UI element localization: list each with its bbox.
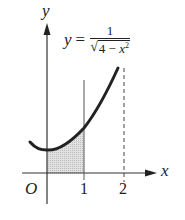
equation-fraction: 1 √ 4 − x2 — [90, 24, 130, 55]
function-curve — [30, 68, 118, 150]
equation-label: y = 1 √ 4 − x2 — [64, 24, 130, 55]
radicand-exp: 2 — [125, 41, 129, 50]
figure: y x O 1 2 y = 1 √ 4 − x2 — [0, 0, 185, 220]
x-tick-label-2: 2 — [119, 181, 127, 197]
origin-label: O — [25, 180, 37, 197]
y-axis-arrow-icon — [44, 23, 51, 35]
radicand-const: 4 − — [99, 41, 119, 56]
y-axis-label: y — [42, 2, 50, 19]
equation-denominator: √ 4 − x2 — [90, 39, 130, 55]
equation-radicand: 4 − x2 — [98, 40, 130, 55]
equation-numerator: 1 — [90, 24, 130, 39]
sqrt-icon: √ — [90, 40, 98, 54]
equation-equals: = — [76, 31, 86, 48]
x-axis-arrow-icon — [145, 170, 157, 177]
x-axis-label: x — [161, 162, 169, 179]
x-tick-label-1: 1 — [80, 181, 88, 197]
equation-lhs: y — [64, 31, 72, 48]
